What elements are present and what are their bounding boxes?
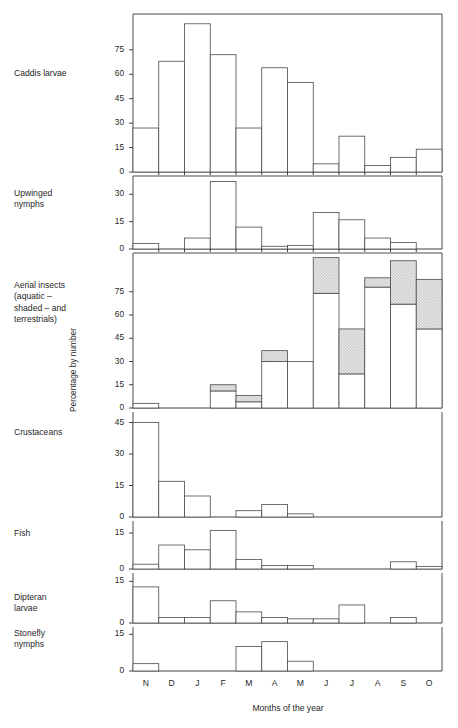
y-tick-label: 75 xyxy=(97,286,124,296)
x-tick-label-11: O xyxy=(417,678,441,688)
x-tick-label-2: J xyxy=(185,678,209,688)
y-tick-label: 0 xyxy=(97,617,124,627)
y-tick-label: 75 xyxy=(97,44,124,54)
x-tick-label-10: S xyxy=(391,678,415,688)
y-tick-label: 60 xyxy=(97,68,124,78)
y-tick-label: 0 xyxy=(97,665,124,675)
y-tick-label: 15 xyxy=(97,480,124,490)
y-tick-label: 15 xyxy=(97,142,124,152)
x-tick-label-1: D xyxy=(160,678,184,688)
y-tick-label: 0 xyxy=(97,402,124,412)
y-tick-label: 45 xyxy=(97,93,124,103)
y-tick-label: 15 xyxy=(97,527,124,537)
chart-figure: Percentage by number Months of the year … xyxy=(0,0,458,728)
y-tick-label: 45 xyxy=(97,417,124,427)
y-tick-label: 60 xyxy=(97,309,124,319)
y-tick-label: 15 xyxy=(97,216,124,226)
y-tick-label: 0 xyxy=(97,563,124,573)
y-tick-label: 0 xyxy=(97,166,124,176)
y-tick-label: 30 xyxy=(97,117,124,127)
y-tick-label: 15 xyxy=(97,379,124,389)
y-tick-label: 30 xyxy=(97,448,124,458)
x-tick-label-9: A xyxy=(366,678,390,688)
x-tick-label-0: N xyxy=(134,678,158,688)
x-tick-label-7: J xyxy=(314,678,338,688)
y-tick-label: 0 xyxy=(97,511,124,521)
plot-surface xyxy=(0,0,458,728)
x-tick-label-6: M xyxy=(288,678,312,688)
x-tick-label-4: M xyxy=(237,678,261,688)
y-tick-label: 30 xyxy=(97,188,124,198)
y-tick-label: 30 xyxy=(97,356,124,366)
y-tick-label: 45 xyxy=(97,332,124,342)
x-tick-label-5: A xyxy=(263,678,287,688)
x-tick-label-3: F xyxy=(211,678,235,688)
y-tick-label: 0 xyxy=(97,243,124,253)
x-tick-label-8: J xyxy=(340,678,364,688)
y-tick-label: 15 xyxy=(97,575,124,585)
y-tick-label: 15 xyxy=(97,628,124,638)
